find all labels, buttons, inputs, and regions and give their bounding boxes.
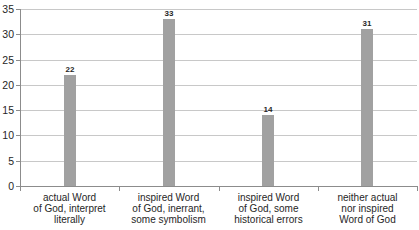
bar-value-label: 14 [256, 105, 280, 114]
bar [163, 19, 175, 186]
category-label: actual Wordof God, interpretliterally [20, 192, 119, 225]
category-label: neither actualnor inspiredWord of God [318, 192, 417, 225]
bar-value-label: 31 [355, 19, 379, 28]
y-axis-tick-label: 20 [0, 79, 14, 91]
bar-value-label: 33 [157, 9, 181, 18]
bar [64, 75, 76, 186]
x-axis-boundary-tick [219, 186, 220, 191]
bar [262, 115, 274, 186]
y-axis-tick-label: 5 [0, 155, 14, 167]
gridline [20, 110, 417, 111]
bar [361, 29, 373, 186]
y-axis-tick-label: 10 [0, 129, 14, 141]
gridline [20, 85, 417, 86]
x-axis-boundary-tick [20, 186, 21, 191]
y-axis-tick-label: 15 [0, 104, 14, 116]
x-axis-boundary-tick [318, 186, 319, 191]
x-axis-boundary-tick [417, 186, 418, 191]
gridline [20, 34, 417, 35]
y-axis-tick-label: 0 [0, 180, 14, 192]
gridline [20, 9, 417, 10]
bar-chart: 0510152025303522actual Wordof God, inter… [0, 0, 419, 230]
y-axis-tick-label: 25 [0, 54, 14, 66]
gridline [20, 60, 417, 61]
y-axis-tick-label: 35 [0, 3, 14, 15]
y-axis-line [20, 9, 21, 191]
gridline [20, 135, 417, 136]
category-label: inspired Wordof God, inerrant,some symbo… [119, 192, 218, 225]
gridline [20, 161, 417, 162]
x-axis-boundary-tick [119, 186, 120, 191]
category-label: inspired Wordof God, somehistorical erro… [219, 192, 318, 225]
bar-value-label: 22 [58, 65, 82, 74]
y-axis-tick-label: 30 [0, 28, 14, 40]
